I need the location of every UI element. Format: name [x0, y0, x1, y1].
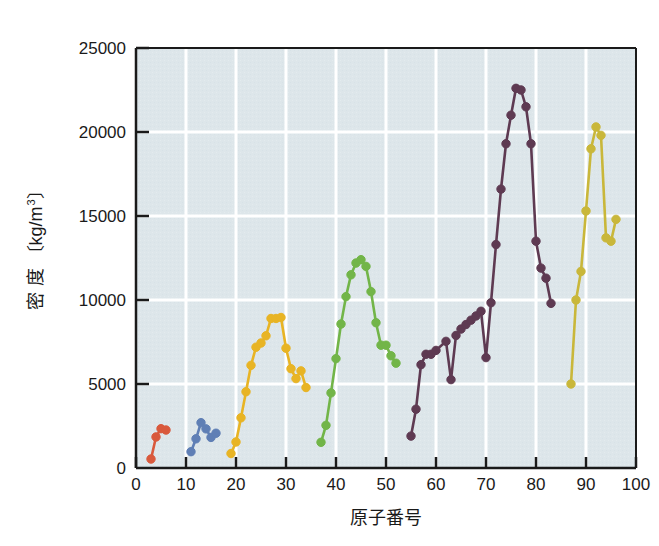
- data-point: [592, 123, 600, 131]
- x-axis-title: 原子番号: [350, 508, 422, 528]
- x-tick-label: 0: [131, 475, 140, 494]
- data-point: [232, 438, 240, 446]
- data-point: [502, 140, 510, 148]
- data-point: [542, 274, 550, 282]
- data-point: [317, 438, 325, 446]
- data-point: [247, 361, 255, 369]
- data-point: [152, 433, 160, 441]
- data-point: [417, 360, 425, 368]
- data-point: [607, 237, 615, 245]
- data-point: [322, 421, 330, 429]
- y-tick-label: 20000: [79, 123, 126, 142]
- data-point: [392, 359, 400, 367]
- chart-canvas: 0102030405060708090100050001000015000200…: [0, 0, 659, 546]
- data-point: [387, 352, 395, 360]
- data-point: [362, 262, 370, 270]
- data-point: [227, 449, 235, 457]
- data-point: [547, 299, 555, 307]
- data-point: [572, 296, 580, 304]
- data-point: [292, 374, 300, 382]
- x-tick-label: 70: [477, 475, 496, 494]
- density-vs-atomic-number-figure: 0102030405060708090100050001000015000200…: [0, 0, 659, 546]
- data-point: [527, 140, 535, 148]
- x-tick-label: 40: [327, 475, 346, 494]
- data-point: [492, 240, 500, 248]
- data-point: [522, 103, 530, 111]
- y-axis-title-bracket: 〕: [26, 181, 46, 199]
- data-point: [192, 435, 200, 443]
- data-point: [342, 292, 350, 300]
- data-point: [372, 318, 380, 326]
- data-point: [567, 380, 575, 388]
- data-point: [337, 320, 345, 328]
- data-point: [477, 307, 485, 315]
- y-tick-label: 0: [117, 459, 126, 478]
- data-point: [332, 354, 340, 362]
- data-point: [582, 207, 590, 215]
- data-point: [537, 264, 545, 272]
- x-tick-label: 60: [427, 475, 446, 494]
- y-tick-label: 15000: [79, 207, 126, 226]
- data-point: [327, 389, 335, 397]
- data-point: [532, 237, 540, 245]
- y-axis-title-main: 密 度 〔kg/m: [26, 206, 46, 309]
- data-point: [412, 405, 420, 413]
- data-point: [517, 86, 525, 94]
- data-point: [257, 339, 265, 347]
- data-point: [297, 367, 305, 375]
- data-point: [302, 383, 310, 391]
- x-tick-label: 20: [227, 475, 246, 494]
- data-point: [212, 429, 220, 437]
- y-tick-label: 5000: [88, 375, 126, 394]
- data-point: [187, 447, 195, 455]
- x-tick-label: 50: [377, 475, 396, 494]
- data-point: [597, 131, 605, 139]
- data-point: [242, 388, 250, 396]
- data-point: [202, 425, 210, 433]
- y-axis-title: 密 度 〔kg/m 3 〕: [25, 181, 46, 309]
- data-point: [382, 341, 390, 349]
- x-tick-label: 100: [622, 475, 650, 494]
- data-point: [447, 375, 455, 383]
- data-point: [262, 332, 270, 340]
- data-point: [277, 313, 285, 321]
- data-point: [162, 426, 170, 434]
- data-point: [587, 145, 595, 153]
- x-tick-label: 80: [527, 475, 546, 494]
- data-point: [432, 346, 440, 354]
- data-point: [237, 414, 245, 422]
- data-point: [487, 298, 495, 306]
- data-point: [577, 267, 585, 275]
- x-tick-label: 30: [277, 475, 296, 494]
- y-tick-label: 25000: [79, 39, 126, 58]
- data-point: [407, 432, 415, 440]
- data-point: [482, 353, 490, 361]
- data-point: [612, 215, 620, 223]
- data-point: [147, 455, 155, 463]
- data-point: [282, 344, 290, 352]
- data-point: [497, 185, 505, 193]
- data-point: [442, 337, 450, 345]
- x-tick-label: 90: [577, 475, 596, 494]
- data-point: [287, 365, 295, 373]
- y-tick-label: 10000: [79, 291, 126, 310]
- data-point: [507, 111, 515, 119]
- data-point: [347, 271, 355, 279]
- x-tick-label: 10: [177, 475, 196, 494]
- data-point: [367, 287, 375, 295]
